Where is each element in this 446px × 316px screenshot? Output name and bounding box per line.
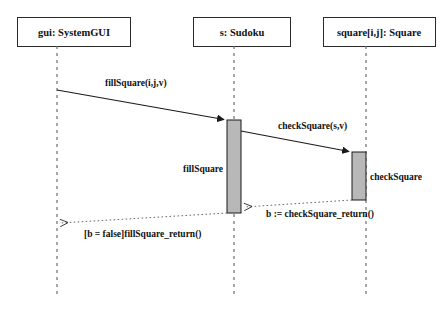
lifeline-gui[interactable]: gui: SystemGUI <box>18 18 131 299</box>
sequence-diagram-svg: gui: SystemGUI s: Sudoku square[i,j]: Sq… <box>0 0 446 316</box>
lifeline-label-sudoku: s: Sudoku <box>220 27 265 38</box>
activation-rect-checksquare <box>352 152 366 200</box>
message-label-checksquare: checkSquare(s,v) <box>278 121 347 132</box>
lifeline-sudoku[interactable]: s: Sudoku <box>194 18 291 299</box>
message-arrow-fillsquare <box>57 90 224 120</box>
message-fillsquare[interactable]: fillSquare(i,j,v) <box>57 78 224 120</box>
message-checksquare[interactable]: checkSquare(s,v) <box>241 121 349 152</box>
activation-label-fillsquare: fillSquare <box>183 164 223 174</box>
return-arrow-fillsquare <box>60 213 227 223</box>
message-arrow-checksquare <box>241 131 349 152</box>
activation-bar-fillsquare[interactable]: fillSquare <box>183 120 241 213</box>
sequence-diagram-canvas: gui: SystemGUI s: Sudoku square[i,j]: Sq… <box>0 0 446 316</box>
activation-label-checksquare: checkSquare <box>370 172 422 182</box>
lifeline-label-gui: gui: SystemGUI <box>38 27 110 38</box>
activation-rect-fillsquare <box>227 120 241 213</box>
message-label-fillsquare: fillSquare(i,j,v) <box>105 78 167 89</box>
message-label-fillsquare-return: [b = false]fillSquare_return() <box>84 229 201 240</box>
lifeline-square[interactable]: square[i,j]: Square <box>324 18 436 299</box>
message-label-checksquare-return: b := checkSquare_return() <box>266 209 374 220</box>
activation-bar-checksquare[interactable]: checkSquare <box>352 152 422 200</box>
return-arrow-checksquare <box>244 200 352 207</box>
message-fillsquare-return[interactable]: [b = false]fillSquare_return() <box>60 213 227 240</box>
message-checksquare-return[interactable]: b := checkSquare_return() <box>244 200 374 220</box>
lifeline-label-square: square[i,j]: Square <box>337 27 422 38</box>
